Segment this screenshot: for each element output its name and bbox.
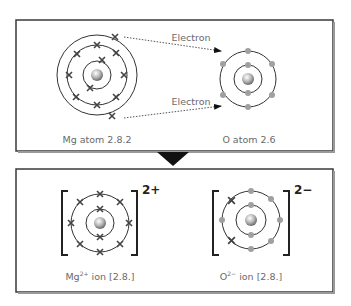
down-triangle-arrow-icon bbox=[157, 152, 189, 166]
electron-label-bottom: Electron bbox=[172, 96, 211, 107]
electron-label-top: Electron bbox=[172, 32, 211, 43]
o-atom-label: O atom 2.6 bbox=[222, 134, 275, 145]
o-ion-charge: 2− bbox=[294, 183, 312, 197]
mg-nucleus bbox=[91, 69, 103, 81]
bottom-panel bbox=[16, 169, 333, 292]
o-nucleus bbox=[242, 73, 254, 85]
mg-atom-label: Mg atom 2.8.2 bbox=[62, 134, 131, 145]
mg-ion-charge: 2+ bbox=[142, 183, 160, 197]
mg-ion-label: Mg2+ ion [2.8.] bbox=[65, 270, 134, 282]
diagram-canvas: Mg atom 2.8.2 Electron Electron O atom 2… bbox=[0, 0, 351, 306]
